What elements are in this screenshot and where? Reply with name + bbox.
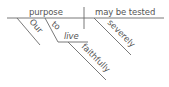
predicate-word: may be tested (95, 7, 155, 17)
modifier-word-our: Our (27, 17, 45, 36)
modifier-word-faithfully: faithfully (80, 41, 113, 74)
infinitive-word-live: live (64, 31, 79, 41)
subject-word: purpose (29, 7, 63, 17)
modifier-word-severely: severely (106, 17, 138, 49)
sentence-diagram: purpose may be tested Our to live faithf… (0, 0, 169, 87)
